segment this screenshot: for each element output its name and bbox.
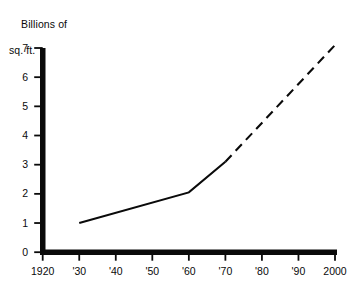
y-axis-tick-label: 4 [10,130,28,141]
x-axis-tick-label: '50 [145,266,159,277]
y-axis-tick-label: 7 [10,43,28,54]
x-axis-tick-label: '90 [292,266,306,277]
y-axis-tick-label: 3 [10,159,28,170]
y-axis-tick-label: 1 [10,218,28,229]
x-axis-tick-label: '30 [72,266,86,277]
plot-area [0,0,359,286]
y-axis-line [40,48,46,254]
x-axis-tick-label: '70 [219,266,233,277]
x-axis-tick-label: 1920 [31,266,54,277]
data-line-projected [225,45,335,162]
y-axis-tick-label: 6 [10,72,28,83]
x-axis-tick-label: '40 [109,266,123,277]
y-axis-tick-label: 5 [10,101,28,112]
x-axis-tick-label: 2000 [323,266,346,277]
chart-container: Billions of sq. ft. 01234567 1920'30'40'… [0,0,359,286]
y-axis-tick-label: 0 [10,247,28,258]
y-axis-tick-label: 2 [10,188,28,199]
data-line-actual [79,162,225,223]
x-axis-tick-label: '80 [255,266,269,277]
x-axis-tick-label: '60 [182,266,196,277]
x-axis-line [40,250,337,256]
